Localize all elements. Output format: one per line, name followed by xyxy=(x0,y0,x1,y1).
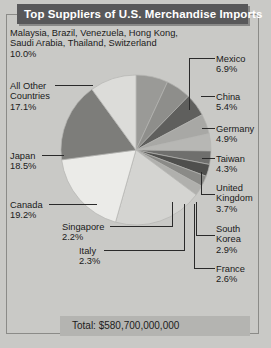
leader-uk-v xyxy=(201,172,202,195)
label-japan-pct: 18.5% xyxy=(10,161,36,171)
leader-singapore-h xyxy=(110,226,172,227)
chart-plot-area: Malaysia, Brazil, Venezuela, Hong Kong, … xyxy=(0,24,271,348)
label-other-group-pct: 10.0% xyxy=(10,49,178,59)
total-label: Total: $580,700,000,000 xyxy=(60,316,250,336)
label-japan: Japan 18.5% xyxy=(10,151,36,172)
label-china-name: China xyxy=(216,92,240,102)
leader-taiwan xyxy=(202,158,215,159)
label-italy-name: Italy xyxy=(79,246,96,256)
label-taiwan-name: Taiwan xyxy=(216,154,245,164)
label-mexico: Mexico 6.9% xyxy=(216,54,245,75)
leader-korea-h xyxy=(196,235,215,236)
label-germany-pct: 4.9% xyxy=(216,134,254,144)
label-korea-line1: South xyxy=(216,224,240,234)
label-korea-pct: 2.9% xyxy=(216,245,241,255)
label-canada: Canada 19.2% xyxy=(10,200,43,221)
label-other-group-line1: Malaysia, Brazil, Venezuela, Hong Kong, xyxy=(10,28,178,38)
label-all-other-countries: All Other Countries 17.1% xyxy=(10,81,50,112)
label-france-name: France xyxy=(216,264,245,274)
leader-italy-h xyxy=(104,250,184,251)
leader-canada xyxy=(49,204,97,205)
page-title: Top Suppliers of U.S. Merchandise Import… xyxy=(17,4,248,24)
label-germany-name: Germany xyxy=(216,124,254,134)
label-france-pct: 2.6% xyxy=(216,274,245,284)
label-mexico-name: Mexico xyxy=(216,54,245,64)
leader-mexico-v xyxy=(189,58,190,110)
label-other-group-line2: Saudi Arabia, Thailand, Switzerland xyxy=(10,38,157,48)
label-japan-name: Japan xyxy=(10,151,35,161)
label-italy: Italy 2.3% xyxy=(79,246,100,267)
label-germany: Germany 4.9% xyxy=(216,124,254,145)
label-united-kingdom: United Kingdom 3.7% xyxy=(216,183,253,214)
label-singapore: Singapore 2.2% xyxy=(62,222,104,243)
label-singapore-name: Singapore xyxy=(62,222,104,232)
label-south-korea: South Korea 2.9% xyxy=(216,224,241,255)
label-uk-pct: 3.7% xyxy=(216,204,253,214)
leader-japan xyxy=(42,155,64,156)
label-other-group: Malaysia, Brazil, Venezuela, Hong Kong, … xyxy=(10,28,178,59)
label-korea-line2: Korea xyxy=(216,234,241,244)
label-italy-pct: 2.3% xyxy=(79,256,100,266)
label-uk-line1: United xyxy=(216,183,243,193)
label-china: China 5.4% xyxy=(216,92,240,113)
label-all-other-line2: Countries xyxy=(10,91,50,101)
chart-figure: Top Suppliers of U.S. Merchandise Import… xyxy=(0,0,271,348)
leader-uk-h xyxy=(201,194,215,195)
label-taiwan: Taiwan 4.3% xyxy=(216,154,245,175)
label-uk-line2: Kingdom xyxy=(216,193,253,203)
label-china-pct: 5.4% xyxy=(216,102,240,112)
label-mexico-pct: 6.9% xyxy=(216,64,245,74)
leader-singapore-v xyxy=(172,202,173,227)
label-all-other-line1: All Other xyxy=(10,81,46,91)
leader-korea-v xyxy=(196,202,197,236)
label-canada-pct: 19.2% xyxy=(10,210,43,220)
label-all-other-pct: 17.1% xyxy=(10,102,50,112)
leader-france-v xyxy=(194,204,195,269)
leader-mexico-h xyxy=(189,58,215,59)
chart-title-bar: Top Suppliers of U.S. Merchandise Import… xyxy=(17,4,248,24)
leader-germany xyxy=(202,128,215,129)
label-canada-name: Canada xyxy=(10,200,43,210)
label-singapore-pct: 2.2% xyxy=(62,232,104,242)
label-taiwan-pct: 4.3% xyxy=(216,164,245,174)
leader-italy-v xyxy=(184,204,185,251)
leader-france-h xyxy=(194,268,215,269)
leader-china xyxy=(201,96,215,97)
label-france: France 2.6% xyxy=(216,264,245,285)
leader-all-other xyxy=(55,85,93,86)
total-box: Total: $580,700,000,000 xyxy=(60,316,250,336)
